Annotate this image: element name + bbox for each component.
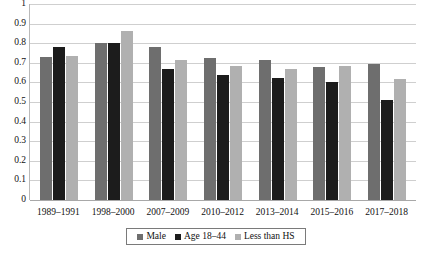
bar-group — [141, 4, 196, 200]
x-axis-tick-label: 2007–2009 — [140, 205, 195, 221]
x-axis-tick-label: 1989–1991 — [31, 205, 86, 221]
y-axis-tick-label: 0.1 — [14, 176, 26, 186]
y-axis-tick-label: 0.4 — [14, 117, 26, 127]
legend-label: Age 18–44 — [184, 232, 226, 242]
bar — [40, 57, 52, 200]
bar-group — [196, 4, 251, 200]
legend-label: Less than HS — [244, 232, 295, 242]
bar — [162, 69, 174, 200]
y-axis-tick-label: 0.9 — [14, 19, 26, 29]
bar-group — [87, 4, 142, 200]
y-axis-tick-label: 0.5 — [14, 97, 26, 107]
bar — [217, 75, 229, 200]
bar-group — [250, 4, 305, 200]
bar-group — [305, 4, 360, 200]
bar — [66, 56, 78, 200]
x-axis-tick-label: 2010–2012 — [195, 205, 250, 221]
plot-wrapper: 10.90.80.70.60.50.40.30.20.10 1989–19911… — [0, 4, 425, 200]
x-axis-tick-label: 2013–2014 — [250, 205, 305, 221]
bar — [230, 66, 242, 200]
bar-group — [32, 4, 87, 200]
bar — [326, 82, 338, 200]
legend-item[interactable]: Age 18–44 — [175, 232, 226, 242]
y-axis-tick-label: 0.6 — [14, 78, 26, 88]
gridline — [30, 200, 416, 201]
y-axis-tick-label: 0.3 — [14, 136, 26, 146]
bar — [149, 47, 161, 200]
bar-group — [359, 4, 414, 200]
bar — [313, 67, 325, 200]
bar — [381, 100, 393, 200]
y-axis-tick-label: 1 — [21, 0, 26, 9]
legend-swatch-icon — [137, 234, 143, 240]
bar — [339, 66, 351, 200]
legend-item[interactable]: Male — [137, 232, 166, 242]
bar — [95, 43, 107, 200]
bar — [204, 58, 216, 200]
x-axis: 1989–19911998–20002007–20092010–20122013… — [29, 205, 416, 221]
plot-area — [29, 4, 416, 200]
legend-swatch-icon — [175, 234, 181, 240]
bar — [53, 47, 65, 200]
bar — [175, 60, 187, 200]
bar — [108, 43, 120, 200]
y-axis: 10.90.80.70.60.50.40.30.20.10 — [0, 4, 26, 200]
legend-item[interactable]: Less than HS — [235, 232, 295, 242]
bar — [394, 79, 406, 200]
grouped-bar-chart: 10.90.80.70.60.50.40.30.20.10 1989–19911… — [0, 0, 425, 259]
bars-layer — [30, 4, 416, 200]
y-axis-tick-label: 0.8 — [14, 38, 26, 48]
bar — [272, 78, 284, 200]
y-axis-tick-label: 0 — [21, 195, 26, 205]
chart-legend: MaleAge 18–44Less than HS — [126, 228, 306, 245]
x-axis-tick-label: 2015–2016 — [305, 205, 360, 221]
legend-swatch-icon — [235, 234, 241, 240]
x-axis-tick-label: 2017–2018 — [359, 205, 414, 221]
bar — [368, 64, 380, 200]
legend-label: Male — [146, 232, 166, 242]
bar — [121, 31, 133, 200]
y-axis-tick-label: 0.7 — [14, 58, 26, 68]
x-axis-tick-label: 1998–2000 — [86, 205, 141, 221]
y-axis-tick-label: 0.2 — [14, 156, 26, 166]
bar — [285, 69, 297, 200]
bar — [259, 60, 271, 200]
